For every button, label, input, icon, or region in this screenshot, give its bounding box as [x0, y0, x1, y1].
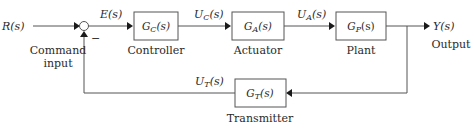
command-caption-line2: input [43, 57, 73, 70]
arrow-head-icon [424, 22, 430, 30]
output-signal-label: Y(s) [433, 20, 455, 33]
arrow-head-icon [127, 22, 133, 30]
summing-junction [80, 22, 89, 31]
actuator-output-signal-label: UA(s) [297, 8, 326, 22]
controller-transfer-label: GC(s) [142, 20, 170, 34]
arrow-head-icon [225, 22, 231, 30]
error-signal-label: E(s) [99, 8, 122, 21]
controller-output-signal-label: UC(s) [194, 8, 224, 22]
input-signal-label: R(s) [1, 20, 25, 33]
block-diagram: R(s) Command input − E(s) GC(s) Controll… [0, 0, 474, 131]
output-caption: Output [431, 38, 471, 51]
command-caption-line1: Command [30, 44, 87, 57]
transmitter-output-signal-label: UT(s) [195, 75, 224, 89]
plant-caption: Plant [347, 44, 377, 57]
actuator-transfer-label: GA(s) [244, 20, 272, 34]
plant-transfer-label: GP(s) [347, 20, 374, 34]
transmitter-transfer-label: GT(s) [246, 87, 273, 101]
arrow-head-icon [329, 22, 335, 30]
arrow-head-icon [80, 31, 88, 37]
feedback-sign: − [91, 32, 100, 45]
controller-caption: Controller [127, 44, 185, 57]
transmitter-caption: Transmitter [227, 112, 294, 125]
actuator-caption: Actuator [233, 44, 283, 57]
arrow-head-icon [286, 89, 292, 97]
